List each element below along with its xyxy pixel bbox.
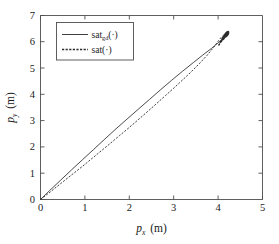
x-axis-title-unit: (m): [150, 222, 167, 235]
y-tick-label: 5: [30, 63, 35, 74]
y-axis-tick-labels: 0 1 2 3 4 5 6 7: [30, 10, 36, 205]
x-tick-label: 0: [38, 202, 43, 213]
y-tick-label: 7: [30, 10, 35, 21]
y-tick-label: 6: [30, 36, 35, 47]
y-tick-label: 2: [30, 141, 35, 152]
x-tick-label: 1: [82, 202, 87, 213]
y-axis-title-unit: (m): [4, 92, 17, 109]
y-tick-label: 1: [30, 168, 35, 179]
y-tick-label: 0: [30, 194, 35, 205]
x-tick-label: 3: [171, 202, 176, 213]
svg-text:py (m): py (m): [4, 92, 19, 124]
legend-label-base: sat: [92, 30, 103, 40]
trajectory-chart: 0 1 2 3 4 5 0 1 2 3 4 5 6 7 px (m) py (m…: [0, 0, 279, 244]
legend[interactable]: satgd(·) sat(·): [57, 23, 134, 61]
legend-label-tail: (·): [108, 30, 118, 41]
legend-label-tail: (·): [102, 45, 112, 56]
y-tick-label: 4: [30, 89, 36, 100]
x-axis-title: px (m): [135, 222, 167, 237]
figure-container: 0 1 2 3 4 5 0 1 2 3 4 5 6 7 px (m) py (m…: [0, 0, 279, 244]
x-tick-label: 4: [215, 202, 221, 213]
legend-label-base: sat: [92, 45, 103, 55]
x-tick-label: 5: [260, 202, 265, 213]
svg-text:px (m): px (m): [135, 222, 167, 237]
x-tick-label: 2: [127, 202, 132, 213]
legend-label-sat: sat(·): [92, 45, 112, 56]
y-axis-title-subscript: y: [10, 113, 19, 118]
convergence-cluster: [218, 30, 230, 46]
y-axis-title: py (m): [4, 92, 19, 124]
x-axis-title-subscript: x: [141, 228, 146, 237]
x-axis-tick-labels: 0 1 2 3 4 5: [38, 202, 265, 213]
y-tick-label: 3: [30, 115, 35, 126]
